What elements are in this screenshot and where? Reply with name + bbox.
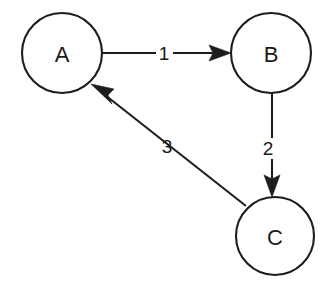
edge-c-to-a-arrowhead	[91, 84, 114, 104]
node-c-label: C	[267, 225, 283, 250]
edge-c-to-a[interactable]: 3	[91, 84, 246, 206]
node-c[interactable]: C	[236, 197, 314, 275]
edge-c-to-a-line	[100, 91, 246, 206]
node-b-label: B	[264, 42, 279, 67]
node-a[interactable]: A	[22, 13, 102, 93]
graph-diagram-canvas: 1 2 3 A B C	[0, 0, 331, 289]
node-a-label: A	[55, 42, 70, 67]
edge-b-to-c-label: 2	[263, 138, 274, 159]
edge-a-to-b-label: 1	[159, 43, 170, 64]
edge-c-to-a-label: 3	[162, 136, 173, 157]
edge-b-to-c[interactable]: 2	[263, 93, 280, 197]
node-b[interactable]: B	[231, 13, 311, 93]
edge-a-to-b[interactable]: 1	[102, 43, 231, 64]
graph-diagram-svg: 1 2 3 A B C	[0, 0, 331, 289]
